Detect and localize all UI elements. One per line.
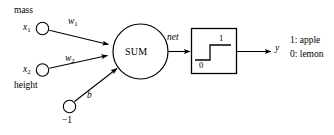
legend-class-apple: apple xyxy=(300,35,321,45)
diagram-canvas: mass x1 w1 w2 x2 height b −1 SUM net 0 1… xyxy=(0,0,334,135)
legend-separator-lemon: : xyxy=(295,49,298,59)
input-node-x2 xyxy=(36,64,48,76)
weight-subscript-w1: 1 xyxy=(74,20,77,27)
bias-node xyxy=(63,100,75,112)
connection-x1-to-sum xyxy=(49,30,108,44)
legend-item-apple: 1: apple xyxy=(290,36,320,46)
legend-class-lemon: lemon xyxy=(300,49,324,59)
legend-separator-apple: : xyxy=(295,35,298,45)
output-label-y: y xyxy=(275,44,279,54)
connection-bias-to-sum xyxy=(75,69,118,102)
input-node-x1 xyxy=(36,22,48,34)
input-subscript-x2: 2 xyxy=(27,68,30,75)
legend-item-lemon: 0: lemon xyxy=(290,50,324,60)
bias-node-label: −1 xyxy=(62,116,72,126)
input-subscript-x1: 1 xyxy=(27,26,30,33)
feature-label-mass: mass xyxy=(14,6,33,16)
feature-label-height: height xyxy=(14,81,38,91)
weight-label-w2: w2 xyxy=(65,54,75,65)
connection-x2-to-sum xyxy=(49,56,107,69)
net-label: net xyxy=(167,33,179,43)
input-label-x2: x2 xyxy=(23,65,31,76)
summation-label: SUM xyxy=(125,47,147,57)
weight-subscript-w2: 2 xyxy=(71,57,74,64)
diagram-graphics xyxy=(0,0,334,135)
bias-weight-label: b xyxy=(87,91,92,101)
input-label-x1: x1 xyxy=(23,23,31,34)
step-function-curve xyxy=(195,45,231,60)
weight-label-w1: w1 xyxy=(68,17,78,28)
step-high-label: 1 xyxy=(219,34,223,43)
step-low-label: 0 xyxy=(199,61,203,70)
